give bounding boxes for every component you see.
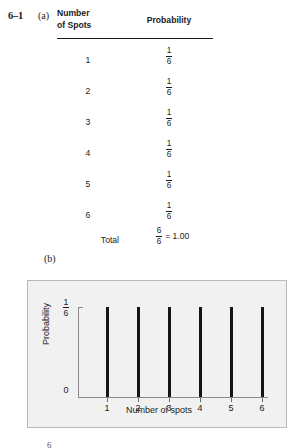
page-footer-fragment: 6	[47, 440, 52, 448]
table-header-row: Number of Spots Probability	[57, 8, 213, 36]
y-axis-title: Probability	[41, 284, 51, 364]
fraction-denominator: 6	[166, 56, 173, 67]
x-axis-title: Number of spots	[54, 405, 264, 415]
fraction: 1 6	[166, 77, 173, 97]
cell-probability: 1 6	[125, 77, 213, 97]
table-total-row: Total 6 6 = 1.00	[57, 224, 213, 252]
fraction-denominator: 6	[166, 211, 173, 222]
plot-area: 1 2 3 4 5 6	[78, 307, 268, 397]
fraction: 1 6	[63, 297, 70, 318]
column-header-probability: Probability	[125, 15, 213, 25]
y-axis-tick-label-zero: 0	[58, 385, 74, 395]
fraction: 1 6	[166, 46, 173, 66]
fraction-numerator: 1	[166, 46, 173, 56]
y-axis-tick-label-max: 1 6	[58, 297, 74, 318]
y-axis-line	[78, 307, 79, 397]
x-axis-tick-mark	[107, 398, 108, 402]
fraction-numerator: 1	[166, 108, 173, 118]
bar-1	[106, 307, 109, 397]
cell-probability: 1 6	[125, 170, 213, 190]
fraction-numerator: 1	[166, 170, 173, 180]
cell-spots: 2	[57, 86, 119, 96]
probability-distribution-chart: Probability 1 6 0 1 2 3 4 5 6 Number of …	[27, 280, 287, 428]
fraction: 1 6	[166, 201, 173, 221]
fraction-denominator: 6	[63, 307, 70, 318]
table-header-rule	[57, 38, 213, 39]
cell-probability: 1 6	[125, 139, 213, 159]
cell-spots: 4	[57, 148, 119, 158]
fraction: 1 6	[166, 108, 173, 128]
cell-spots: 3	[57, 117, 119, 127]
cell-probability: 1 6	[125, 46, 213, 66]
table-row: 5 1 6	[57, 168, 213, 199]
x-axis-tick-mark	[262, 398, 263, 402]
cell-probability: 1 6	[125, 108, 213, 128]
x-axis-tick-mark	[169, 398, 170, 402]
x-axis-tick-mark	[231, 398, 232, 402]
fraction-denominator: 6	[166, 87, 173, 98]
total-value: 6 6 = 1.00	[125, 226, 220, 246]
column-header-line2: of Spots	[57, 20, 91, 30]
bar-4	[199, 307, 202, 397]
bar-3	[168, 307, 171, 397]
column-header-number-of-spots: Number of Spots	[57, 8, 119, 31]
part-b-label: (b)	[44, 253, 56, 264]
cell-spots: 1	[57, 55, 119, 65]
fraction-numerator: 1	[166, 139, 173, 149]
x-axis-tick-mark	[200, 398, 201, 402]
part-a-label: (a)	[38, 10, 49, 21]
fraction: 1 6	[166, 139, 173, 159]
probability-table: Number of Spots Probability 1 1 6 2 1 6	[57, 8, 213, 36]
cell-probability: 1 6	[125, 201, 213, 221]
figure-number: 6–1	[8, 10, 23, 21]
table-row: 3 1 6	[57, 106, 213, 137]
total-label: Total	[57, 235, 119, 245]
table-row: 4 1 6	[57, 137, 213, 168]
fraction-numerator: 1	[166, 201, 173, 211]
fraction-numerator: 1	[63, 297, 70, 307]
total-equals: = 1.00	[162, 231, 189, 241]
bar-5	[230, 307, 233, 397]
x-axis-tick-mark	[138, 398, 139, 402]
column-header-line1: Number	[57, 8, 89, 18]
bar-6	[261, 307, 264, 397]
table-row: 2 1 6	[57, 75, 213, 106]
fraction: 1 6	[166, 170, 173, 190]
fraction-denominator: 6	[166, 118, 173, 129]
y-axis-tick-mark	[78, 307, 83, 308]
fraction-denominator: 6	[166, 180, 173, 191]
cell-spots: 5	[57, 179, 119, 189]
bar-2	[137, 307, 140, 397]
table-row: 1 1 6	[57, 44, 213, 75]
cell-spots: 6	[57, 210, 119, 220]
fraction-numerator: 1	[166, 77, 173, 87]
fraction-denominator: 6	[166, 149, 173, 160]
